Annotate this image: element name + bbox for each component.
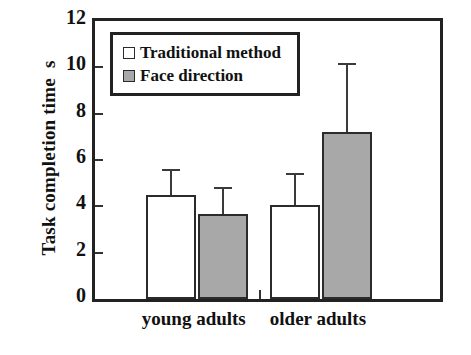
legend-item-face: Face direction bbox=[123, 64, 281, 87]
y-axis-tick-label: 8 bbox=[56, 100, 86, 120]
bar-older-adults-face-direction bbox=[322, 132, 372, 299]
y-axis-tick-label: 0 bbox=[56, 285, 86, 305]
error-bar-stem bbox=[170, 169, 172, 194]
error-bar-cap bbox=[338, 63, 356, 65]
legend-label-traditional: Traditional method bbox=[140, 43, 281, 63]
y-axis-tick-label: 12 bbox=[56, 7, 86, 27]
bar-older-adults-traditional-method bbox=[270, 205, 320, 299]
legend-label-face: Face direction bbox=[140, 66, 243, 86]
error-bar-cap bbox=[286, 173, 304, 175]
y-axis-tick-mark bbox=[95, 159, 103, 161]
x-axis-category-label: older adults bbox=[228, 308, 408, 330]
legend: Traditional method Face direction bbox=[110, 32, 300, 96]
error-bar-stem bbox=[294, 173, 296, 205]
chart-figure: Task completion time s 024681012 Traditi… bbox=[0, 0, 471, 355]
y-axis-tick-mark bbox=[95, 252, 103, 254]
y-axis-tick-mark bbox=[95, 113, 103, 115]
error-bar-cap bbox=[214, 187, 232, 189]
bar-young-adults-face-direction bbox=[198, 214, 248, 299]
error-bar-stem bbox=[346, 63, 348, 133]
white-square-icon bbox=[123, 47, 135, 59]
y-axis-tick-label: 4 bbox=[56, 192, 86, 212]
x-axis-center-tick bbox=[259, 290, 261, 299]
y-axis-tick-label: 6 bbox=[56, 146, 86, 166]
error-bar-stem bbox=[222, 187, 224, 214]
gray-square-icon bbox=[123, 70, 135, 82]
y-axis-tick-labels: 024681012 bbox=[52, 0, 86, 355]
y-axis-tick-label: 10 bbox=[56, 53, 86, 73]
y-axis-tick-mark bbox=[95, 205, 103, 207]
y-axis-tick-label: 2 bbox=[56, 239, 86, 259]
bar-young-adults-traditional-method bbox=[146, 195, 196, 299]
error-bar-cap bbox=[162, 169, 180, 171]
legend-item-traditional: Traditional method bbox=[123, 41, 281, 64]
y-axis-tick-mark bbox=[95, 66, 103, 68]
